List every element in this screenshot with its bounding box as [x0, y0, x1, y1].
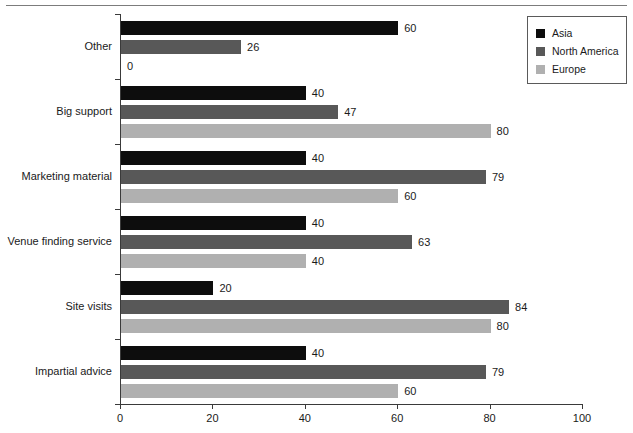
bar-value-label: 0: [127, 60, 133, 72]
bar: [121, 384, 398, 398]
x-axis-tick-label: 40: [299, 412, 311, 424]
bar: [121, 124, 491, 138]
legend-swatch-icon: [536, 65, 545, 74]
y-axis-tick: [115, 209, 120, 210]
category-label: Site visits: [66, 300, 112, 312]
y-axis-tick: [115, 404, 120, 405]
bar: [121, 21, 398, 35]
y-axis-tick: [115, 144, 120, 145]
bar: [121, 189, 398, 203]
legend-item-label: North America: [552, 45, 619, 57]
bar: [121, 319, 491, 333]
x-axis-tick: [212, 404, 213, 409]
bar: [121, 170, 486, 184]
x-axis-tick-label: 60: [391, 412, 403, 424]
bar-value-label: 40: [312, 255, 324, 267]
category-label: Marketing material: [22, 170, 112, 182]
bar-value-label: 20: [219, 282, 231, 294]
bar-value-label: 79: [492, 366, 504, 378]
bar-value-label: 26: [247, 41, 259, 53]
bar: [121, 235, 412, 249]
bar-value-label: 40: [312, 87, 324, 99]
bar: [121, 86, 306, 100]
x-axis-tick-label: 20: [206, 412, 218, 424]
bar-value-label: 47: [344, 106, 356, 118]
category-label: Venue finding service: [7, 235, 112, 247]
bar: [121, 216, 306, 230]
x-axis-tick: [305, 404, 306, 409]
category-label: Big support: [56, 105, 112, 117]
x-axis-tick-label: 80: [483, 412, 495, 424]
category-label: Impartial advice: [35, 365, 112, 377]
legend-item: Europe: [536, 60, 626, 78]
x-axis-tick: [397, 404, 398, 409]
x-axis-tick-label: 100: [573, 412, 591, 424]
bar: [121, 365, 486, 379]
bar-value-label: 79: [492, 171, 504, 183]
y-axis-tick: [115, 274, 120, 275]
legend-swatch-icon: [536, 47, 545, 56]
bar: [121, 254, 306, 268]
bar-value-label: 84: [515, 301, 527, 313]
x-axis-tick: [120, 404, 121, 409]
bar-value-label: 40: [312, 347, 324, 359]
legend-item-label: Europe: [552, 63, 586, 75]
bar-value-label: 80: [497, 320, 509, 332]
category-label: Other: [84, 40, 112, 52]
bar: [121, 105, 338, 119]
x-axis-tick-label: 0: [117, 412, 123, 424]
bar: [121, 151, 306, 165]
bar-chart: 0204060801006026040478040796040634020848…: [0, 0, 633, 433]
legend-item: North America: [536, 42, 626, 60]
x-axis-line: [120, 404, 582, 405]
legend-swatch-icon: [536, 29, 545, 38]
y-axis-tick: [115, 79, 120, 80]
x-axis-tick: [582, 404, 583, 409]
bar-value-label: 60: [404, 190, 416, 202]
y-axis-tick: [115, 14, 120, 15]
legend: AsiaNorth AmericaEurope: [527, 16, 627, 84]
bar-value-label: 80: [497, 125, 509, 137]
plot-area: 0204060801006026040478040796040634020848…: [120, 14, 582, 404]
bar: [121, 300, 509, 314]
legend-item: Asia: [536, 24, 626, 42]
top-border-rule: [6, 5, 627, 6]
legend-item-label: Asia: [552, 27, 572, 39]
bar-value-label: 63: [418, 236, 430, 248]
bar-value-label: 60: [404, 385, 416, 397]
x-axis-tick: [490, 404, 491, 409]
bar-value-label: 40: [312, 217, 324, 229]
bar: [121, 346, 306, 360]
bar-value-label: 40: [312, 152, 324, 164]
bar-value-label: 60: [404, 22, 416, 34]
bar: [121, 40, 241, 54]
bar: [121, 281, 213, 295]
y-axis-tick: [115, 339, 120, 340]
